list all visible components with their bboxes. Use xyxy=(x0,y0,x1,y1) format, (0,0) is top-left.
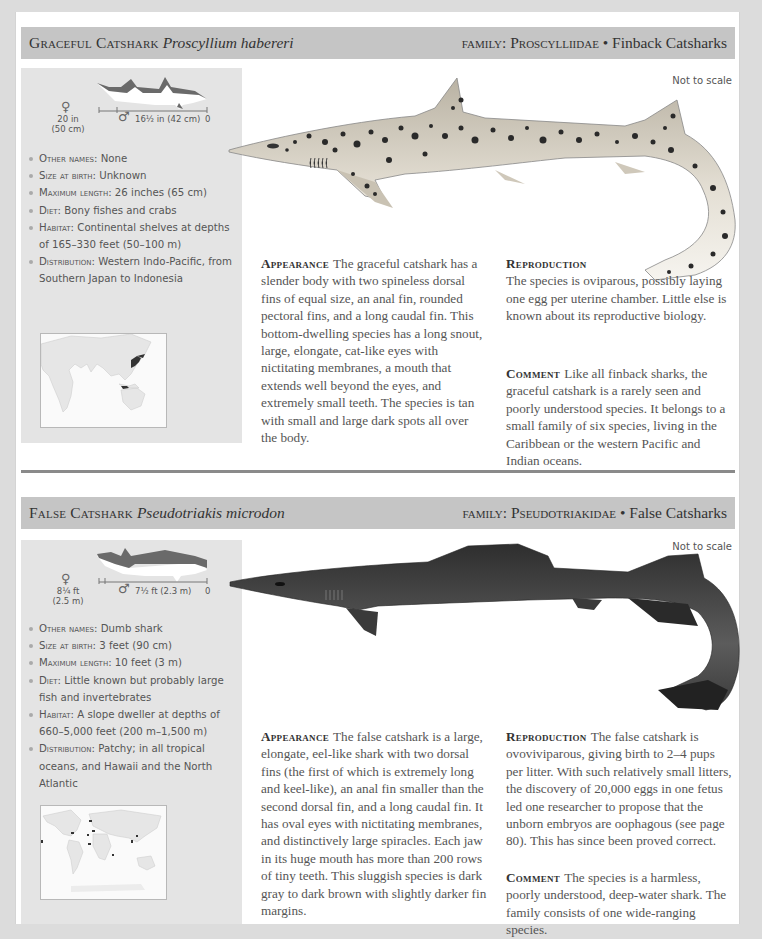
fact-other-names: Other names: None xyxy=(27,150,239,167)
fact-key: Diet: xyxy=(39,675,61,686)
reproduction-label: Reproduction xyxy=(506,255,727,272)
reproduction-text: The false catshark is ovoviviparous, giv… xyxy=(506,729,732,848)
scale-zero: 0 xyxy=(205,586,210,596)
comment-label: Comment xyxy=(506,870,560,885)
male-symbol-icon: ♂ xyxy=(118,581,130,596)
female-size: 8¼ ft(2.5 m) xyxy=(48,586,88,606)
false-catshark-illustration xyxy=(228,540,753,715)
species-header-false-catshark: False CatsharkPseudotriakis microdon fam… xyxy=(21,497,735,529)
fact-habitat: Habitat: A slope dweller at depths of 66… xyxy=(27,706,239,740)
fact-key: Diet: xyxy=(39,205,61,216)
fact-key: Other names: xyxy=(39,623,97,634)
family-line: family: Proscylliidae • Finback Catshark… xyxy=(462,34,727,52)
male-symbol-icon: ♂ xyxy=(118,109,130,124)
family-common-name: Finback Catsharks xyxy=(612,34,727,51)
latin-name: Proscyllium habereri xyxy=(163,34,294,51)
common-name: False Catshark xyxy=(29,504,133,521)
graceful-catshark-illustration xyxy=(225,70,750,285)
female-size-metric: (50 cm) xyxy=(51,124,84,134)
fact-panel-false-catshark: ♀ 8¼ ft(2.5 m) ♂ 7½ ft (2.3 m) 0 Other n… xyxy=(21,540,242,924)
fact-value: None xyxy=(101,153,128,164)
family-name: Pseudotriakidae xyxy=(511,504,616,521)
fact-value: 26 inches (65 cm) xyxy=(115,187,207,198)
size-diagram: ♀ 8¼ ft(2.5 m) ♂ 7½ ft (2.3 m) 0 xyxy=(21,540,242,620)
common-name: Graceful Catshark xyxy=(29,34,159,51)
reproduction-section: ReproductionThe false catshark is ovoviv… xyxy=(506,728,734,850)
fact-value: 3 feet (90 cm) xyxy=(99,640,172,651)
fact-key: Maximum length: xyxy=(39,187,112,198)
reproduction-section: Reproduction The species is oviparous, p… xyxy=(506,255,731,325)
section-separator xyxy=(21,470,735,473)
comment-section: CommentLike all finback sharks, the grac… xyxy=(506,365,734,469)
fact-key: Size at birth: xyxy=(39,640,96,651)
species-header-graceful-catshark: Graceful CatsharkProscyllium habereri fa… xyxy=(21,27,735,59)
fact-maximum-length: Maximum length: 10 feet (3 m) xyxy=(27,654,239,671)
fact-other-names: Other names: Dumb shark xyxy=(27,620,239,637)
scale-zero: 0 xyxy=(205,114,210,124)
male-size: 16½ in (42 cm) xyxy=(135,114,200,124)
female-size-imperial: 8¼ ft xyxy=(57,586,80,596)
fact-panel-graceful-catshark: ♀ 20 in(50 cm) ♂ 16½ in (42 cm) 0 Other … xyxy=(21,68,242,443)
fact-value: Bony fishes and crabs xyxy=(64,205,176,216)
fact-key: Maximum length: xyxy=(39,657,112,668)
shark-silhouette-icon xyxy=(95,71,210,119)
fact-distribution: Distribution: Patchy; in all tropical oc… xyxy=(27,740,239,792)
fact-diet: Diet: Bony fishes and crabs xyxy=(27,202,239,219)
fact-value: Dumb shark xyxy=(101,623,163,634)
fact-key: Distribution: xyxy=(39,256,95,267)
comment-section: CommentThe species is a harmless, poorly… xyxy=(506,869,734,939)
range-map-world xyxy=(40,805,167,900)
appearance-label: Appearance xyxy=(261,256,329,271)
species-title: False CatsharkPseudotriakis microdon xyxy=(29,504,285,522)
fact-size-at-birth: Size at birth: Unknown xyxy=(27,167,239,184)
fact-key: Habitat: xyxy=(39,709,74,720)
fact-key: Size at birth: xyxy=(39,170,96,181)
family-line: family: Pseudotriakidae • False Catshark… xyxy=(462,504,727,522)
family-label: family: xyxy=(462,504,507,521)
appearance-label: Appearance xyxy=(261,729,329,744)
appearance-section: AppearanceThe graceful catshark has a sl… xyxy=(261,255,486,446)
size-diagram: ♀ 20 in(50 cm) ♂ 16½ in (42 cm) 0 xyxy=(21,68,242,148)
latin-name: Pseudotriakis microdon xyxy=(137,504,285,521)
fact-list: Other names: None Size at birth: Unknown… xyxy=(27,150,239,288)
species-title: Graceful CatsharkProscyllium habereri xyxy=(29,34,294,52)
family-separator: • xyxy=(620,504,625,521)
appearance-text: The false catshark is a large, elongate,… xyxy=(261,729,486,918)
fact-diet: Diet: Little known but probably large fi… xyxy=(27,672,239,706)
fact-key: Other names: xyxy=(39,153,97,164)
fact-value: Unknown xyxy=(99,170,146,181)
comment-label: Comment xyxy=(506,366,560,381)
world-map-icon xyxy=(41,806,166,899)
range-map-indo-pacific xyxy=(40,333,167,428)
fact-key: Distribution: xyxy=(39,743,95,754)
fact-value: 10 feet (3 m) xyxy=(115,657,182,668)
female-symbol-icon: ♀ xyxy=(61,99,71,114)
reproduction-text: The species is oviparous, possibly layin… xyxy=(506,272,731,324)
fact-maximum-length: Maximum length: 26 inches (65 cm) xyxy=(27,184,239,201)
family-common-name: False Catsharks xyxy=(629,504,727,521)
fact-size-at-birth: Size at birth: 3 feet (90 cm) xyxy=(27,637,239,654)
fact-distribution: Distribution: Western Indo-Pacific, from… xyxy=(27,253,239,287)
fact-key: Habitat: xyxy=(39,222,74,233)
fact-list: Other names: Dumb shark Size at birth: 3… xyxy=(27,620,239,792)
female-size: 20 in(50 cm) xyxy=(48,114,88,134)
male-size: 7½ ft (2.3 m) xyxy=(135,586,191,596)
world-map-icon xyxy=(41,334,166,427)
family-label: family: xyxy=(462,34,507,51)
appearance-section: AppearanceThe false catshark is a large,… xyxy=(261,728,489,919)
family-separator: • xyxy=(603,34,608,51)
female-size-imperial: 20 in xyxy=(57,114,78,124)
fact-habitat: Habitat: Continental shelves at depths o… xyxy=(27,219,239,253)
female-symbol-icon: ♀ xyxy=(61,571,71,586)
shark-silhouette-icon xyxy=(95,542,210,590)
fact-value: Little known but probably large fish and… xyxy=(39,675,224,703)
reproduction-label: Reproduction xyxy=(506,729,587,744)
comment-text: Like all finback sharks, the graceful ca… xyxy=(506,366,725,468)
appearance-text: The graceful catshark has a slender body… xyxy=(261,256,482,445)
family-name: Proscylliidae xyxy=(510,34,599,51)
female-size-metric: (2.5 m) xyxy=(52,596,83,606)
